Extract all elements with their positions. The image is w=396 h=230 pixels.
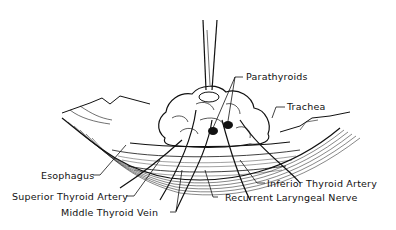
label-superior-thyroid-artery: Superior Thyroid Artery (12, 191, 128, 202)
label-trachea: Trachea (287, 101, 325, 112)
label-esophagus: Esophagus (41, 170, 94, 181)
illustration: Parathyroids Trachea Esophagus Superior … (0, 0, 396, 230)
label-inferior-thyroid-artery: Inferior Thyroid Artery (267, 178, 377, 189)
parathyroid-inferior (208, 127, 218, 135)
label-recurrent-laryngeal-nerve: Recurrent Laryngeal Nerve (225, 192, 358, 203)
parathyroid-superior (223, 121, 233, 129)
label-parathyroids: Parathyroids (246, 71, 308, 82)
label-middle-thyroid-vein: Middle Thyroid Vein (61, 207, 158, 218)
